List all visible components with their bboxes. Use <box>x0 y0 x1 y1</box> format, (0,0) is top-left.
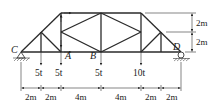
node-label-a: A <box>64 50 72 61</box>
load-label-1: 5t <box>35 68 43 78</box>
dim-label-5: 2m <box>145 92 157 102</box>
dim-label-6: 2m <box>166 92 178 102</box>
load-label-4: 10t <box>133 68 146 78</box>
load-label-3: 5t <box>95 68 103 78</box>
dim-label-3: 4m <box>75 92 87 102</box>
node-label-d: D <box>172 41 181 52</box>
dim-label-2: 2m <box>45 92 57 102</box>
load-label-2: 5t <box>55 68 63 78</box>
node-label-b: B <box>90 50 96 61</box>
truss-diagram: C A B D 5t 5t 5t 10t 2m 2m 4m 4m 2m 2m <box>0 0 218 105</box>
node-label-c: C <box>11 44 18 55</box>
vdim-label-1: 2m <box>196 18 208 28</box>
roller-support-d <box>173 52 190 61</box>
vertical-dimensions <box>145 13 196 52</box>
dim-label-1: 2m <box>25 92 37 102</box>
vdim-label-2: 2m <box>196 37 208 47</box>
truss-members <box>21 13 181 52</box>
dim-label-4: 4m <box>115 92 127 102</box>
